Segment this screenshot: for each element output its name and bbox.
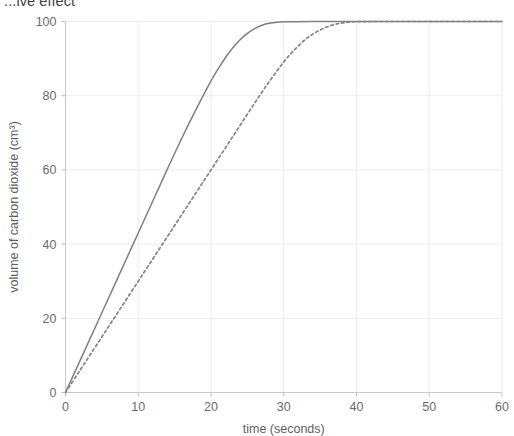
y-tick-label: 80 bbox=[43, 89, 57, 103]
y-tick-label: 0 bbox=[50, 386, 57, 400]
chart-container: ...ive effect 0102030405060 020406080100… bbox=[0, 0, 514, 436]
gridlines-group bbox=[66, 22, 503, 393]
y-tick-label: 100 bbox=[36, 15, 57, 29]
x-tick-labels-group: 0102030405060 bbox=[62, 400, 509, 414]
x-tick-label: 60 bbox=[495, 400, 509, 414]
y-tick-labels-group: 020406080100 bbox=[36, 15, 57, 400]
y-tick-label: 20 bbox=[43, 312, 57, 326]
x-axis-title: time (seconds) bbox=[243, 422, 325, 436]
chart-plot-area: 0102030405060 020406080100 time (seconds… bbox=[0, 0, 514, 436]
y-tick-label: 40 bbox=[43, 238, 57, 252]
x-tick-label: 30 bbox=[277, 400, 291, 414]
y-tick-label: 60 bbox=[43, 163, 57, 177]
x-tick-label: 10 bbox=[131, 400, 145, 414]
y-axis-title: volume of carbon dioxide (cm³) bbox=[7, 121, 21, 293]
x-tick-label: 20 bbox=[204, 400, 218, 414]
x-tick-label: 50 bbox=[422, 400, 436, 414]
tickmarks-group bbox=[62, 22, 503, 397]
x-tick-label: 40 bbox=[350, 400, 364, 414]
x-tick-label: 0 bbox=[62, 400, 69, 414]
